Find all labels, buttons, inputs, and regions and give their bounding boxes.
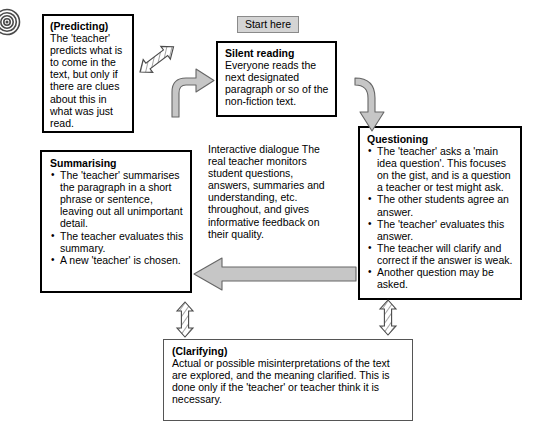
diagram-canvas: (Predicting) The 'teacher' predicts what… [0, 0, 535, 429]
silentreading-questioning-curved-arrow [355, 78, 384, 131]
questioning-summarising-arrow [194, 258, 356, 290]
silentreading-inflow-curved-arrow [172, 69, 214, 117]
connector-layer [0, 0, 535, 429]
questioning-clarifying-double-arrow [380, 300, 396, 335]
summarising-clarifying-double-arrow [177, 302, 193, 337]
predicting-silentreading-double-arrow [135, 40, 178, 78]
